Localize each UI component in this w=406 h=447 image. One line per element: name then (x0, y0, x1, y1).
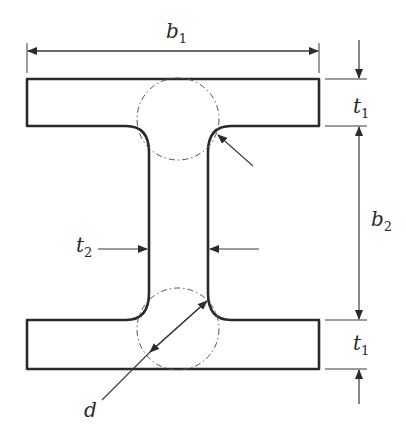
t1-top-label: t1 (353, 94, 369, 121)
fillet-leader-arrow (218, 135, 253, 166)
b2-label: b2 (371, 207, 392, 234)
t2-dimension: t2 (76, 233, 259, 260)
i-beam-outline (27, 79, 319, 369)
t2-label: t2 (76, 233, 92, 260)
b1-dimension: b1 (27, 19, 319, 73)
diagram-canvas: b1 t1 b2 t1 t2 d (0, 0, 406, 447)
top-inscribed-circle (137, 78, 219, 160)
t1-bottom-dimension: t1 (353, 331, 369, 404)
b1-label: b1 (166, 19, 187, 46)
right-extension-lines (325, 79, 367, 369)
b2-dimension: b2 (359, 127, 392, 319)
t1-top-dimension: t1 (353, 40, 369, 121)
i-beam-diagram: b1 t1 b2 t1 t2 d (0, 0, 406, 447)
t1-bottom-label: t1 (353, 331, 369, 358)
d-label: d (84, 398, 97, 422)
